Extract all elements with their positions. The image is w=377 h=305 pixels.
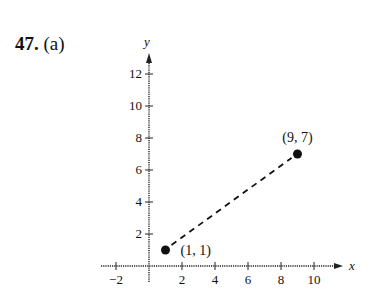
x-axis-label: x [348, 258, 355, 273]
x-tick-label: 2 [179, 272, 186, 287]
y-tick-label: 6 [136, 162, 143, 177]
x-tick-label: 8 [278, 272, 285, 287]
x-axis-arrow-icon [334, 263, 343, 269]
y-tick-label: 4 [136, 194, 143, 209]
dashed-segment [172, 158, 292, 245]
coordinate-plane: xy−224681024681012(1, 1)(9, 7) [0, 0, 377, 305]
point-label: (1, 1) [181, 243, 212, 259]
x-tick-label: 6 [245, 272, 252, 287]
y-axis-label: y [142, 34, 150, 49]
point-label: (9, 7) [282, 130, 313, 146]
data-point [161, 246, 170, 255]
x-tick-label: −2 [109, 272, 123, 287]
y-tick-label: 8 [136, 130, 143, 145]
y-tick-label: 12 [129, 66, 142, 81]
x-tick-label: 10 [308, 272, 321, 287]
x-tick-label: 4 [212, 272, 219, 287]
data-point [293, 150, 302, 159]
y-axis-arrow-icon [146, 53, 152, 63]
y-tick-label: 2 [136, 226, 143, 241]
y-tick-label: 10 [129, 98, 142, 113]
